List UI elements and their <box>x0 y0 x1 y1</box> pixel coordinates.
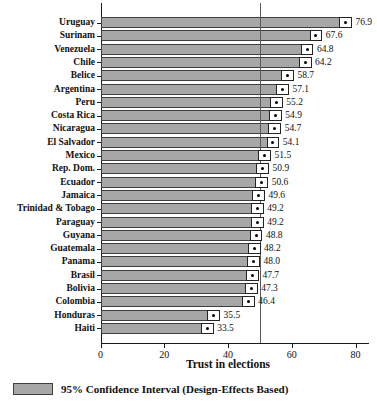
x-axis-line <box>101 343 369 344</box>
point-dot <box>260 181 263 184</box>
category-tick <box>97 235 101 236</box>
bar <box>101 137 280 148</box>
bar <box>101 256 260 267</box>
country-label: Guyana <box>0 230 95 241</box>
category-tick <box>97 156 101 157</box>
category-tick <box>97 49 101 50</box>
legend-label: 95% Confidence Interval (Design-Effects … <box>61 382 288 396</box>
trust-in-elections-figure: UruguaySurinamVenezuelaChileBeliceArgent… <box>0 0 377 410</box>
x-tick <box>164 344 165 348</box>
value-label: 35.5 <box>224 310 241 321</box>
value-label: 55.2 <box>286 97 303 108</box>
country-label: Costa Rica <box>0 110 95 121</box>
point-dot <box>304 61 307 64</box>
x-tick <box>101 344 102 348</box>
value-label: 67.6 <box>326 30 343 41</box>
category-tick <box>97 23 101 24</box>
country-label: Mexico <box>0 150 95 161</box>
value-label: 47.3 <box>261 283 278 294</box>
bar <box>101 217 264 228</box>
bar <box>101 17 352 28</box>
point-dot <box>256 221 259 224</box>
point-dot <box>253 247 256 250</box>
bar <box>101 163 270 174</box>
value-label: 48.0 <box>263 256 280 267</box>
country-label: Trinidad & Tobago <box>0 203 95 214</box>
x-axis-title: Trust in elections <box>100 358 356 370</box>
country-label: Brasil <box>0 270 95 281</box>
category-tick <box>97 249 101 250</box>
value-label: 48.8 <box>266 230 283 241</box>
value-label: 54.7 <box>285 123 302 134</box>
value-label: 58.7 <box>297 70 314 81</box>
bar <box>101 44 314 55</box>
country-label: Belice <box>0 70 95 81</box>
category-tick <box>97 129 101 130</box>
category-tick <box>97 142 101 143</box>
value-label: 50.9 <box>273 163 290 174</box>
value-label: 51.5 <box>275 150 292 161</box>
value-label: 64.2 <box>315 57 332 68</box>
value-label: 49.2 <box>267 217 284 228</box>
point-dot <box>250 287 253 290</box>
country-label: Bolivia <box>0 283 95 294</box>
value-label: 48.2 <box>264 243 281 254</box>
legend-swatch <box>13 383 53 395</box>
category-tick <box>97 222 101 223</box>
bar <box>101 57 312 68</box>
country-label: Chile <box>0 57 95 68</box>
point-dot <box>206 327 209 330</box>
bar <box>101 150 272 161</box>
category-tick <box>97 195 101 196</box>
category-tick <box>97 116 101 117</box>
category-tick <box>97 302 101 303</box>
point-dot <box>306 48 309 51</box>
value-label: 46.4 <box>258 296 275 307</box>
category-tick <box>97 169 101 170</box>
country-label: Jamaica <box>0 190 95 201</box>
value-label: 54.9 <box>285 110 302 121</box>
bar <box>101 283 258 294</box>
value-label: 64.8 <box>317 44 334 55</box>
category-tick <box>97 209 101 210</box>
point-dot <box>251 274 254 277</box>
country-label: Ecuador <box>0 177 95 188</box>
country-label: Honduras <box>0 310 95 321</box>
bar <box>101 323 214 334</box>
x-tick <box>356 344 357 348</box>
country-label: Peru <box>0 97 95 108</box>
point-dot <box>255 234 258 237</box>
bar <box>101 296 255 307</box>
country-label: Colombia <box>0 296 95 307</box>
category-tick <box>97 328 101 329</box>
country-label: Paraguay <box>0 217 95 228</box>
value-label: 47.7 <box>262 270 279 281</box>
category-tick <box>97 89 101 90</box>
value-label: 33.5 <box>217 323 234 334</box>
bar <box>101 97 283 108</box>
value-label: 57.1 <box>292 84 309 95</box>
bar <box>101 70 294 81</box>
value-label: 50.6 <box>272 177 289 188</box>
category-tick <box>97 315 101 316</box>
category-tick <box>97 62 101 63</box>
bar <box>101 177 269 188</box>
country-label: Uruguay <box>0 17 95 28</box>
category-tick <box>97 182 101 183</box>
x-tick <box>292 344 293 348</box>
bar <box>101 203 264 214</box>
value-label: 49.2 <box>267 203 284 214</box>
country-label: Guatemala <box>0 243 95 254</box>
bar <box>101 310 221 321</box>
country-label: Venezuela <box>0 44 95 55</box>
point-dot <box>257 194 260 197</box>
category-tick <box>97 275 101 276</box>
bar <box>101 30 323 41</box>
category-tick <box>97 262 101 263</box>
value-label: 49.6 <box>268 190 285 201</box>
country-label: El Salvador <box>0 137 95 148</box>
bar <box>101 110 282 121</box>
point-dot <box>212 314 215 317</box>
x-tick <box>228 344 229 348</box>
category-tick <box>97 102 101 103</box>
